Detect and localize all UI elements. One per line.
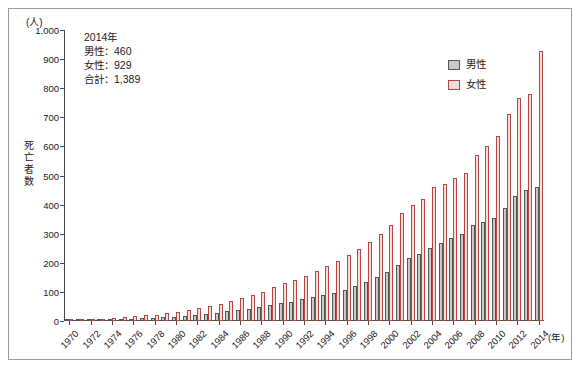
bar-female (293, 280, 297, 321)
x-tick-mark (197, 321, 198, 325)
bar-female (389, 225, 393, 321)
chart-root: (人) 死 亡 者 数 2014年 男性：460 女性：929 合計：1,389… (0, 0, 582, 368)
bar-female (432, 187, 436, 321)
x-tick-mark (112, 321, 113, 325)
x-tick-mark (411, 321, 412, 325)
bar-female (539, 51, 543, 321)
x-tick-mark (261, 321, 262, 325)
bar-female (357, 249, 361, 321)
bar-female (208, 306, 212, 321)
bar-female (197, 308, 201, 321)
x-tick-mark (389, 321, 390, 325)
bar-female (336, 261, 340, 321)
x-tick-mark (219, 321, 220, 325)
x-tick-mark (325, 321, 326, 325)
x-tick-mark (133, 321, 134, 325)
y-axis-title-char-1: 亡 (22, 152, 36, 164)
bar-female (347, 255, 351, 321)
x-tick-mark (155, 321, 156, 325)
y-tick-mark (60, 117, 64, 118)
y-tick-mark (60, 176, 64, 177)
bar-female (379, 234, 383, 321)
y-tick-label: 400 (19, 199, 59, 210)
bar-female (443, 184, 447, 321)
bar-female (80, 319, 84, 321)
bar-female (261, 292, 265, 321)
bar-female (485, 146, 489, 321)
x-axis-unit: (年) (548, 330, 564, 344)
y-tick-label: 600 (19, 141, 59, 152)
bar-female (528, 94, 532, 321)
y-tick-mark (60, 205, 64, 206)
bar-female (453, 178, 457, 321)
y-tick-label: 500 (19, 170, 59, 181)
y-tick-mark (60, 321, 64, 322)
bar-female (101, 319, 105, 321)
x-tick-mark (539, 321, 540, 325)
bar-female (251, 295, 255, 321)
bar-female (187, 310, 191, 321)
bar-female (272, 287, 276, 321)
y-tick-mark (60, 263, 64, 264)
bar-female (176, 312, 180, 321)
bar-female (229, 301, 233, 321)
bar-female (507, 114, 511, 321)
x-tick-mark (91, 321, 92, 325)
plot-area: 01002003004005006007008009001,000 197019… (64, 30, 544, 321)
y-tick-mark (60, 234, 64, 235)
y-tick-mark (60, 146, 64, 147)
bar-female (400, 213, 404, 321)
bar-female (517, 98, 521, 321)
bar-female (240, 298, 244, 321)
x-tick-mark (347, 321, 348, 325)
x-tick-mark (475, 321, 476, 325)
y-tick-label: 700 (19, 112, 59, 123)
y-tick-label: 300 (19, 228, 59, 239)
x-tick-mark (283, 321, 284, 325)
bar-female (475, 155, 479, 321)
y-tick-mark (60, 292, 64, 293)
x-tick-mark (240, 321, 241, 325)
bar-female (219, 304, 223, 321)
bar-female (283, 283, 287, 321)
bar-series-container (64, 30, 544, 321)
bar-female (464, 173, 468, 321)
x-tick-mark (368, 321, 369, 325)
y-tick-label: 1,000 (19, 25, 59, 36)
x-tick-mark (432, 321, 433, 325)
bar-female (421, 199, 425, 321)
x-tick-mark (496, 321, 497, 325)
bar-female (304, 276, 308, 321)
y-tick-label: 100 (19, 286, 59, 297)
x-tick-mark (517, 321, 518, 325)
x-tick-mark (304, 321, 305, 325)
y-tick-mark (60, 30, 64, 31)
bar-female (144, 315, 148, 321)
y-tick-label: 900 (19, 54, 59, 65)
bar-female (165, 313, 169, 321)
bar-female (315, 271, 319, 321)
y-tick-label: 200 (19, 257, 59, 268)
bar-female (123, 317, 127, 321)
y-tick-label: 0 (19, 316, 59, 327)
y-tick-mark (60, 59, 64, 60)
x-tick-mark (453, 321, 454, 325)
bar-female (325, 266, 329, 321)
bar-female (411, 205, 415, 321)
x-tick-mark (69, 321, 70, 325)
bar-female (496, 136, 500, 321)
y-tick-label: 800 (19, 83, 59, 94)
y-tick-mark (60, 88, 64, 89)
bar-female (368, 242, 372, 321)
x-tick-mark (176, 321, 177, 325)
